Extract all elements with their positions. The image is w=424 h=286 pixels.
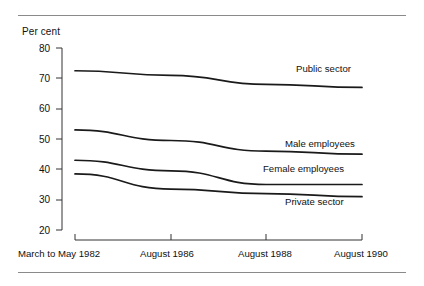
y-axis	[56, 48, 62, 230]
data-series-group	[75, 71, 362, 197]
figure-container: Per cent 80 70 60 50 40 30 20 March to M…	[0, 0, 424, 286]
series-line-female-employees	[75, 160, 362, 184]
x-axis	[75, 234, 362, 240]
series-line-male-employees	[75, 130, 362, 154]
plot-area	[0, 0, 424, 286]
chart-svg	[0, 0, 424, 286]
series-line-public-sector	[75, 71, 362, 88]
